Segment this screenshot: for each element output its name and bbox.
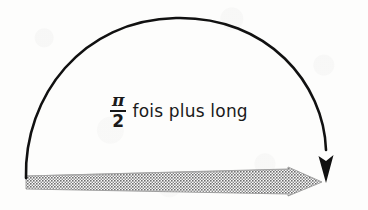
gray-arrow-body	[26, 167, 322, 196]
pi-over-two-fraction: π 2	[110, 92, 126, 130]
figure-canvas: π 2 fois plus long	[0, 0, 368, 210]
arc-arrowhead-triangle	[319, 155, 334, 183]
label-text: fois plus long	[132, 101, 247, 121]
arc-length-label: π 2 fois plus long	[110, 92, 248, 130]
fraction-denominator-two: 2	[112, 112, 124, 130]
arc-arrowhead-down	[319, 155, 334, 183]
horizontal-gray-arrow	[26, 167, 322, 196]
fraction-numerator-pi: π	[110, 92, 126, 110]
